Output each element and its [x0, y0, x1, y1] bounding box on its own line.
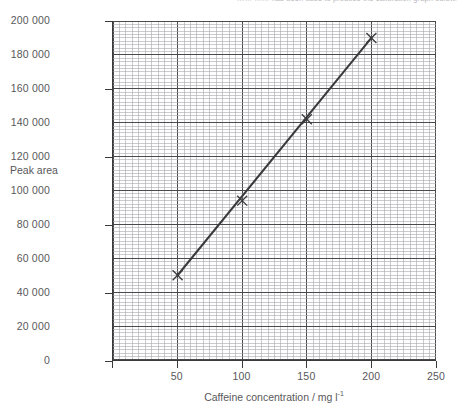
- chart-page: …… …… has been used to produce the calib…: [0, 0, 463, 416]
- x-tick-label: 100: [233, 370, 251, 382]
- x-tick-mark: [306, 361, 307, 368]
- x-tick-mark: [177, 361, 178, 368]
- x-tick-mark: [112, 361, 113, 368]
- x-axis-title: Caffeine concentration / mg l-1: [204, 390, 344, 403]
- y-axis-title: Peak area: [10, 164, 58, 176]
- x-axis-title-text: Caffeine concentration / mg l: [204, 391, 337, 403]
- x-tick-mark: [371, 361, 372, 368]
- x-axis: 50100150200250: [0, 0, 463, 416]
- x-axis-title-exponent: -1: [338, 390, 344, 397]
- x-tick-label: 250: [427, 370, 445, 382]
- x-tick-label: 200: [362, 370, 380, 382]
- x-tick-mark: [242, 361, 243, 368]
- x-tick-label: 150: [297, 370, 315, 382]
- x-tick-mark: [436, 361, 437, 368]
- x-tick-label: 50: [171, 370, 183, 382]
